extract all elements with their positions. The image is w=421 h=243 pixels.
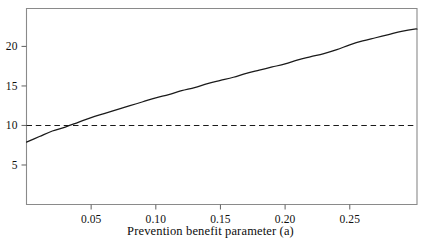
y-tick-label: 5	[0, 159, 18, 171]
x-axis-ticks	[91, 205, 350, 210]
x-tick-label: 0.25	[339, 213, 360, 225]
plot-area	[0, 0, 421, 243]
y-tick-label: 15	[0, 80, 18, 92]
axis-frame	[27, 9, 418, 205]
y-axis-ticks	[22, 46, 27, 165]
y-tick-label: 10	[0, 119, 18, 131]
chart-figure: 5101520 0.050.100.150.200.25 Prevention …	[0, 0, 421, 243]
x-tick-label: 0.20	[275, 213, 296, 225]
y-tick-label: 20	[0, 40, 18, 52]
x-axis-title: Prevention benefit parameter (a)	[0, 224, 421, 239]
x-tick-label: 0.15	[210, 213, 231, 225]
x-tick-label: 0.10	[146, 213, 167, 225]
x-tick-label: 0.05	[81, 213, 102, 225]
